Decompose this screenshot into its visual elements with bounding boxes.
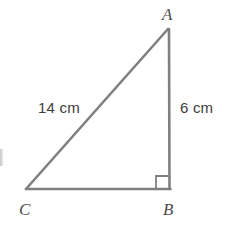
right-angle-marker-icon xyxy=(156,176,169,189)
vertex-label-b: B xyxy=(163,201,173,218)
page-edge-artifact xyxy=(0,149,3,166)
side-length-label-vertical: 6 cm xyxy=(180,100,213,115)
triangle-figure: A B C 14 cm 6 cm xyxy=(0,0,225,228)
side-length-label-hypotenuse: 14 cm xyxy=(38,100,80,115)
vertex-label-a: A xyxy=(162,6,172,23)
triangle-side-vertical xyxy=(169,29,170,189)
vertex-label-c: C xyxy=(19,201,30,218)
